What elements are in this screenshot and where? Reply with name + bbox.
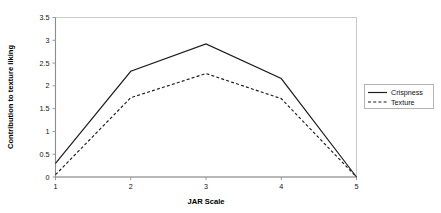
y-tick-label: 0.5 bbox=[40, 150, 50, 159]
legend[interactable]: CrispnessTexture bbox=[365, 85, 434, 109]
y-tick-label: 1 bbox=[46, 127, 50, 136]
y-tick-label: 3.5 bbox=[40, 13, 50, 22]
y-tick-label: 0 bbox=[46, 173, 50, 182]
x-tick-label: 1 bbox=[54, 182, 58, 191]
chart-canvas: 00.511.522.533.5 12345 Contribution to t… bbox=[0, 0, 441, 213]
x-tick-label: 4 bbox=[279, 182, 283, 191]
x-axis-title: JAR Scale bbox=[187, 197, 224, 206]
y-tick-label: 2.5 bbox=[40, 59, 50, 68]
y-tick-label: 2 bbox=[46, 81, 50, 90]
x-tick-label: 2 bbox=[129, 182, 133, 191]
x-tick-label: 3 bbox=[204, 182, 208, 191]
y-axis-title: Contribution to texture liking bbox=[6, 45, 15, 150]
y-tick-label: 1.5 bbox=[40, 104, 50, 113]
legend-label-texture: Texture bbox=[391, 98, 415, 107]
y-tick-label: 3 bbox=[46, 36, 50, 45]
x-tick-label: 5 bbox=[355, 182, 359, 191]
legend-label-crispness: Crispness bbox=[391, 88, 423, 97]
line-chart-figure: 00.511.522.533.5 12345 Contribution to t… bbox=[0, 0, 441, 213]
